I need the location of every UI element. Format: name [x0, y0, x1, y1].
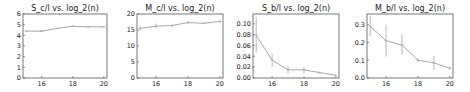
chart-svg: M_b/l vs. log_2(n)1618200.00.10.20.3 [0, 0, 470, 92]
y-tick-label: 0.0 [355, 74, 365, 82]
x-tick-label: 20 [446, 80, 454, 88]
y-tick-label: 0.3 [355, 21, 365, 29]
data-line [370, 26, 450, 68]
plot-frame [367, 14, 453, 78]
x-tick-label: 18 [414, 80, 422, 88]
chart-m-bl: M_b/l vs. log_2(n)1618200.00.10.20.3 [0, 0, 470, 92]
x-tick-label: 16 [382, 80, 390, 88]
y-tick-label: 0.2 [355, 39, 365, 47]
chart-title: M_b/l vs. log_2(n) [375, 4, 445, 13]
y-tick-label: 0.1 [355, 57, 365, 65]
